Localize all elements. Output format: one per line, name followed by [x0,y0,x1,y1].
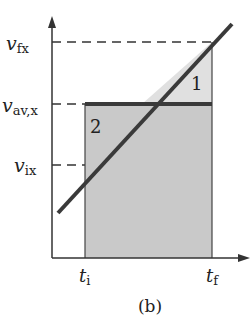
figure-caption: (b) [138,296,162,316]
average-velocity-area [85,104,212,258]
y-axis-arrow-icon [48,16,56,28]
label-v-avx: vav,x [2,94,38,118]
label-t-f: tf [206,265,219,288]
label-v-fx: vfx [6,32,30,56]
x-axis-arrow-icon [238,254,250,262]
region-1-label: 1 [191,73,202,94]
label-t-i: ti [79,265,90,288]
velocity-time-diagram: vfx vav,x vix ti tf 1 2 (b) [0,0,251,324]
region-2-label: 2 [90,116,101,137]
label-v-ix: vix [14,154,37,178]
